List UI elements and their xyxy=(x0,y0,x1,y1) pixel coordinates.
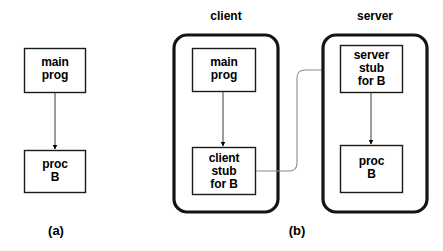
diagram-canvas xyxy=(0,0,443,251)
box-b-server-stub-label: server stub for B xyxy=(340,49,403,88)
client-machine-title: client xyxy=(178,10,274,23)
panel-b-caption: (b) xyxy=(267,224,327,237)
box-b-client-stub-label: client stub for B xyxy=(192,152,256,191)
box-b-main-prog-label: main prog xyxy=(192,56,256,82)
server-machine-title: server xyxy=(327,10,423,23)
figure-root: main prog proc B (a) client server main … xyxy=(0,0,443,251)
panel-a-caption: (a) xyxy=(26,224,86,237)
box-a-main-prog-label: main prog xyxy=(24,56,86,82)
box-b-proc-b-label: proc B xyxy=(340,155,403,181)
box-a-proc-b-label: proc B xyxy=(24,158,86,184)
